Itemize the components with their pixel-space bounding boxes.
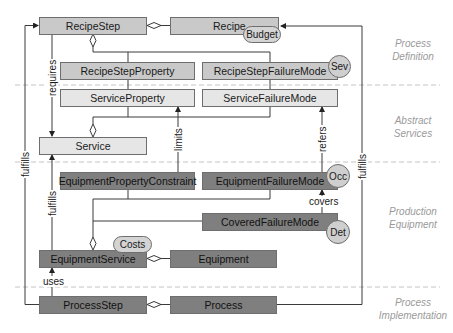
class-service-failure-mode[interactable]: ServiceFailureMode — [202, 89, 338, 107]
class-recipe-step[interactable]: RecipeStep — [39, 17, 147, 35]
attribute-severity[interactable]: Sev — [328, 55, 351, 78]
layer-label-line: Implementation — [368, 309, 453, 322]
class-recipe-step-failure-mode[interactable]: RecipeStepFailureMode — [202, 62, 338, 80]
attribute-budget[interactable]: Budget — [243, 26, 281, 43]
relation-label-refers: refers — [317, 125, 328, 153]
relation-label-uses: uses — [43, 276, 64, 287]
class-process-step[interactable]: ProcessStep — [39, 296, 147, 314]
layer-label-line: Process — [368, 296, 453, 309]
layer-label-line: Abstract — [368, 114, 453, 127]
layer-label-line: Definition — [368, 50, 453, 63]
layer-label-abstract-services: Abstract Services — [368, 114, 453, 140]
class-service-property[interactable]: ServiceProperty — [60, 89, 195, 107]
relation-label-limits: limits — [173, 127, 184, 152]
relation-label-covers: covers — [309, 196, 338, 207]
layer-label-process-implementation: Process Implementation — [368, 296, 453, 322]
aggregation-diamond — [147, 23, 161, 29]
class-recipe-step-property[interactable]: RecipeStepProperty — [60, 62, 195, 80]
class-equipment[interactable]: Equipment — [170, 250, 277, 268]
relation-label-requires: requires — [47, 59, 58, 97]
layer-label-production-equipment: Production Equipment — [368, 205, 453, 231]
layer-label-line: Services — [368, 127, 453, 140]
relation-label-fulfills-mid: fulfills — [47, 190, 58, 217]
relation-label-fulfills-left: fulfills — [20, 151, 31, 178]
layer-label-line: Equipment — [368, 218, 453, 231]
layer-label-process-definition: Process Definition — [368, 37, 453, 63]
relation-label-fulfills-right: fulfills — [357, 153, 368, 180]
layer-label-line: Process — [368, 37, 453, 50]
class-covered-failure-mode[interactable]: CoveredFailureMode — [202, 213, 338, 231]
class-equipment-failure-mode[interactable]: EquipmentFailureMode — [202, 172, 338, 190]
layer-label-line: Production — [368, 205, 453, 218]
class-process[interactable]: Process — [170, 296, 277, 314]
class-service[interactable]: Service — [39, 137, 147, 155]
attribute-costs[interactable]: Costs — [113, 236, 152, 253]
attribute-occurrence[interactable]: Occ — [326, 164, 350, 188]
class-equipment-property-constraint[interactable]: EquipmentPropertyConstraint — [60, 172, 195, 190]
attribute-detection[interactable]: Det — [326, 220, 350, 244]
